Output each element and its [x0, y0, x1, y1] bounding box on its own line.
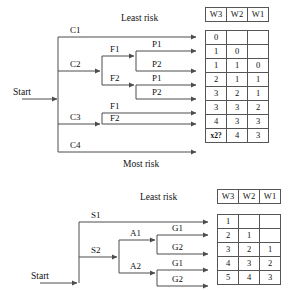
bottom-least-risk-label: Least risk: [140, 193, 177, 202]
cell-w3: 0: [206, 31, 227, 45]
table-row: 4 3 2: [218, 257, 281, 271]
top-table-header: W3 W2 W1: [205, 7, 269, 22]
table-row: 3 3 2: [206, 101, 269, 115]
cell-w2: 4: [227, 129, 248, 143]
table-row: 4 3 3: [206, 115, 269, 129]
cell-w2: 1: [239, 229, 260, 243]
top-most-risk-label: Most risk: [123, 160, 159, 169]
cell-w2: 1: [227, 59, 248, 73]
cell-w1: [248, 45, 269, 59]
bottom-header-w3: W3: [218, 190, 239, 204]
cell-w2: 3: [239, 257, 260, 271]
top-header-w1: W1: [248, 8, 269, 22]
cell-w1: 1: [260, 243, 281, 257]
cell-w3: 2: [206, 73, 227, 87]
top-mid-label-f1-lower: F1: [110, 102, 120, 111]
cell-w3: 1: [206, 59, 227, 73]
cell-w3: 3: [206, 101, 227, 115]
cell-w1: 0: [248, 59, 269, 73]
table-row: 2 1: [218, 229, 281, 243]
bottom-leaf-label-g2-lower: G2: [172, 275, 183, 284]
cell-w2: 1: [227, 73, 248, 87]
table-row: 3 2 1: [206, 87, 269, 101]
cell-w1: 3: [248, 129, 269, 143]
top-leaf-label-p1-upper: P1: [152, 40, 162, 49]
top-mid-label-f1-upper: F1: [110, 45, 120, 54]
table-row: 2 1 1: [206, 73, 269, 87]
cell-w2: 3: [227, 115, 248, 129]
cell-w2: 2: [239, 243, 260, 257]
table-row: 0: [206, 31, 269, 45]
bottom-branch-label-s2: S2: [91, 246, 101, 255]
cell-w1: [260, 215, 281, 229]
top-branch-label-c4: C4: [70, 141, 81, 150]
bottom-risk-table: 1 2 1 3 2 1 4 3 2 5 4 3: [217, 214, 281, 285]
cell-w3: 3: [206, 87, 227, 101]
top-mid-label-f2-lower: F2: [110, 114, 120, 123]
cell-w1: [260, 229, 281, 243]
table-row: 5 4 3: [218, 271, 281, 285]
cell-w3-annotated: x2?: [206, 129, 227, 143]
top-leaf-label-p1-lower: P1: [152, 74, 162, 83]
table-row: 3 2 1: [218, 243, 281, 257]
top-header-w2: W2: [227, 8, 248, 22]
bottom-leaf-label-g2-upper: G2: [172, 243, 183, 252]
bottom-leaf-label-g1-upper: G1: [172, 224, 183, 233]
cell-w2: 4: [239, 271, 260, 285]
top-least-risk-label: Least risk: [121, 14, 158, 23]
cell-w2: 3: [227, 101, 248, 115]
top-branch-label-c3: C3: [70, 113, 81, 122]
cell-w3: 1: [206, 45, 227, 59]
cell-w3: 2: [218, 229, 239, 243]
top-branch-label-c1: C1: [70, 26, 81, 35]
bottom-branch-label-s1: S1: [91, 211, 101, 220]
cell-w2: 2: [227, 87, 248, 101]
cell-w1: [248, 31, 269, 45]
top-risk-table: 0 1 0 1 1 0 2 1 1 3 2 1 3 3 2: [205, 30, 269, 143]
cell-w2: [239, 215, 260, 229]
cell-w3: 3: [218, 243, 239, 257]
bottom-header-w1: W1: [260, 190, 281, 204]
top-leaf-label-p2-upper: P2: [152, 60, 162, 69]
bottom-mid-label-a1: A1: [130, 229, 141, 238]
table-row: 1: [218, 215, 281, 229]
table-row: x2? 4 3: [206, 129, 269, 143]
bottom-start-label: Start: [31, 272, 49, 281]
cell-w1: 3: [248, 115, 269, 129]
top-branch-label-c2: C2: [70, 60, 81, 69]
cell-w3: 5: [218, 271, 239, 285]
bottom-leaf-label-g1-lower: G1: [172, 259, 183, 268]
cell-w1: 2: [248, 101, 269, 115]
top-header-w3: W3: [206, 8, 227, 22]
bottom-header-w2: W2: [239, 190, 260, 204]
cell-w3: 1: [218, 215, 239, 229]
top-mid-label-f2-upper: F2: [110, 74, 120, 83]
cell-w1: 3: [260, 271, 281, 285]
table-header-row: W3 W2 W1: [218, 190, 281, 204]
table-header-row: W3 W2 W1: [206, 8, 269, 22]
bottom-mid-label-a2: A2: [130, 262, 141, 271]
cell-w1: 2: [260, 257, 281, 271]
figure-canvas: Least risk C1 C2 C3 C4 F1 F2 F1 F2 P1 P2…: [0, 0, 296, 290]
cell-w3: 4: [218, 257, 239, 271]
top-start-label: Start: [13, 88, 31, 97]
cell-w3: 4: [206, 115, 227, 129]
table-row: 1 0: [206, 45, 269, 59]
cell-w2: 0: [227, 45, 248, 59]
cell-w2: [227, 31, 248, 45]
table-row: 1 1 0: [206, 59, 269, 73]
cell-w1: 1: [248, 87, 269, 101]
bottom-table-header: W3 W2 W1: [217, 189, 281, 204]
top-leaf-label-p2-lower: P2: [152, 88, 162, 97]
cell-w1: 1: [248, 73, 269, 87]
